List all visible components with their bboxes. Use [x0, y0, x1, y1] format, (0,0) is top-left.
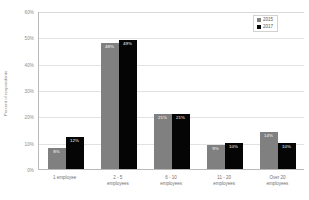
plot-area: 8%12%48%49%21%21%9%10%14%10% [38, 12, 304, 170]
legend-item[interactable]: 2017 [257, 25, 273, 30]
x-axis-tick-label: 1 employee [38, 172, 91, 198]
bar: 49% [119, 40, 137, 169]
legend-label: 2015 [263, 18, 273, 23]
bar-group: 8%12% [39, 12, 92, 169]
x-axis-tick-label: Over 20employees [251, 172, 304, 198]
bar-chart: Percent of respondents 60%50%40%30%20%10… [0, 0, 309, 200]
bar-groups: 8%12%48%49%21%21%9%10%14%10% [39, 12, 304, 169]
bar: 10% [225, 143, 243, 169]
legend-swatch [257, 25, 261, 29]
bar-value-label: 10% [229, 145, 238, 149]
bar: 21% [154, 114, 172, 169]
legend-item[interactable]: 2015 [257, 18, 273, 23]
y-axis-tick: 30% [25, 89, 35, 94]
y-axis-tick: 20% [25, 115, 35, 120]
bar-value-label: 48% [105, 45, 114, 49]
bar-value-label: 9% [212, 147, 219, 151]
bar: 8% [48, 148, 66, 169]
y-axis-tick: 40% [25, 62, 35, 67]
bar-group: 14%10% [251, 12, 304, 169]
legend-label: 2017 [263, 25, 273, 30]
bar-value-label: 10% [282, 145, 291, 149]
bar-group: 9%10% [198, 12, 251, 169]
y-axis-title: Percent of respondents [3, 44, 8, 144]
x-axis-tick-label: 2 - 5employees [91, 172, 144, 198]
bar-value-label: 14% [264, 134, 273, 138]
x-axis-tick-label: 11 - 20employees [198, 172, 251, 198]
bar: 21% [172, 114, 190, 169]
y-axis-tick: 60% [25, 10, 35, 15]
y-axis-tick: 0% [27, 168, 34, 173]
bar: 48% [101, 43, 119, 169]
bar-value-label: 21% [176, 116, 185, 120]
bar: 9% [207, 145, 225, 169]
bar-value-label: 49% [123, 42, 132, 46]
legend: 20152017 [253, 15, 278, 32]
bar-value-label: 8% [53, 150, 60, 154]
y-axis-tick: 10% [25, 141, 35, 146]
bar: 10% [278, 143, 296, 169]
x-axis-tick-label: 6 - 10employees [144, 172, 197, 198]
x-axis-labels: 1 employee2 - 5employees6 - 10employees1… [38, 172, 304, 198]
bar-group: 48%49% [92, 12, 145, 169]
bar: 14% [260, 132, 278, 169]
bar-value-label: 21% [158, 116, 167, 120]
legend-swatch [257, 18, 261, 22]
bar: 12% [66, 137, 84, 169]
bar-value-label: 12% [70, 139, 79, 143]
y-axis: Percent of respondents 60%50%40%30%20%10… [0, 0, 36, 200]
y-axis-tick: 50% [25, 36, 35, 41]
bar-group: 21%21% [145, 12, 198, 169]
